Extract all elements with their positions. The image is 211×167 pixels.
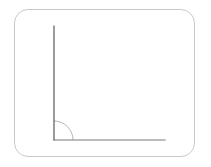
rounded-rectangle-border	[14, 9, 195, 157]
figure-root: Right angle diagram A right angle formed…	[0, 0, 211, 167]
